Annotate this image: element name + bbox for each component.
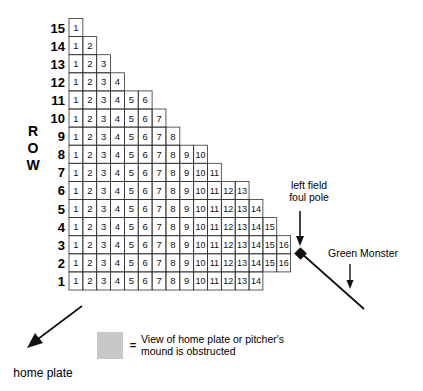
seat-number: 10 [196,240,206,250]
home-plate-label: home plate [13,366,73,380]
seat-number: 3 [101,185,106,196]
seat-number: 2 [87,221,92,232]
seat-number: 8 [170,167,175,178]
legend-swatch [97,332,123,359]
seat-number: 7 [156,203,161,214]
seat-number: 4 [115,94,120,105]
seat-number: 10 [196,150,206,160]
seat-number: 10 [196,258,206,268]
seat-number: 9 [184,185,189,196]
row-label: 14 [51,39,66,54]
seat-number: 6 [143,275,148,286]
seat-number: 5 [129,113,134,124]
seat-number: 10 [196,186,206,196]
row-label: 1 [58,274,65,289]
green-monster-wall [301,253,364,309]
seat-number: 4 [115,275,120,286]
seat-number: 2 [87,239,92,250]
seat-number: 1 [73,203,78,214]
seat-number: 8 [170,257,175,268]
seat-number: 12 [223,186,233,196]
seat-number: 4 [115,113,120,124]
seat-number: 8 [170,203,175,214]
legend-text-line1: View of home plate or pitcher's [141,333,284,345]
legend-equals: = [130,339,136,351]
foul-pole-arrow-head [296,236,304,246]
seat-number: 5 [129,185,134,196]
seat-number: 3 [101,94,106,105]
seat-number: 4 [115,203,120,214]
seat-number: 9 [184,167,189,178]
seat-number: 7 [156,257,161,268]
seat-number: 2 [87,40,92,51]
seat-number: 6 [143,185,148,196]
seat-number: 5 [129,203,134,214]
seat-number: 1 [73,257,78,268]
seat-number: 10 [196,222,206,232]
green-monster-arrow-head [347,280,354,289]
seat-number: 6 [143,167,148,178]
seat-number: 11 [210,240,219,250]
row-label: 3 [58,238,65,253]
seat-number: 11 [210,186,219,196]
seat-number: 1 [73,94,78,105]
seat-number: 5 [129,221,134,232]
seat-number: 15 [265,240,275,250]
seat-number: 16 [279,258,289,268]
seat-number: 7 [156,131,161,142]
row-label: 13 [51,57,65,72]
row-axis-letter: O [28,140,39,156]
seat-number: 14 [251,204,261,214]
seat-number: 13 [237,276,247,286]
seat-number: 8 [170,239,175,250]
seat-number: 5 [129,167,134,178]
seat-number: 15 [265,222,275,232]
row-label: 8 [58,147,65,162]
legend: = View of home plate or pitcher's mound … [97,332,284,359]
seat-number: 7 [156,149,161,160]
seat-number: 5 [129,257,134,268]
seat-number: 6 [143,131,148,142]
seat-number: 4 [115,76,120,87]
seat-number: 1 [73,239,78,250]
seat-number: 1 [73,76,78,87]
seat-number: 3 [101,203,106,214]
seat-number: 7 [156,185,161,196]
seat-number: 8 [170,275,175,286]
seat-number: 2 [87,76,92,87]
seat-number: 1 [73,221,78,232]
green-monster-label: Green Monster [328,247,399,259]
seat-number: 10 [196,204,206,214]
seat-number: 11 [210,258,219,268]
seat-number: 3 [101,58,106,69]
row-label: 7 [58,165,65,180]
row-axis-label: R O W [26,123,40,173]
home-plate-arrow-head [27,333,43,348]
seat-number: 11 [210,204,219,214]
row-label: 5 [58,202,65,217]
seat-number: 2 [87,113,92,124]
seat-number: 5 [129,131,134,142]
seat-number: 1 [73,40,78,51]
row-label: 6 [58,183,65,198]
seat-number: 2 [87,185,92,196]
seat-number: 11 [210,168,219,178]
seat-number: 12 [223,276,233,286]
seat-number: 5 [129,94,134,105]
seat-number: 1 [73,167,78,178]
seat-number: 14 [251,240,261,250]
seat-number: 14 [251,276,261,286]
seat-number: 4 [115,185,120,196]
seat-number: 3 [101,257,106,268]
seat-number: 12 [223,240,233,250]
seat-number: 3 [101,76,106,87]
seat-number: 7 [156,113,161,124]
seat-number: 2 [87,58,92,69]
seat-number: 6 [143,94,148,105]
seat-number: 14 [251,222,261,232]
seat-number: 2 [87,94,92,105]
seat-number: 13 [237,258,247,268]
seat-number: 8 [170,149,175,160]
seat-number: 12 [223,258,233,268]
seat-number: 3 [101,113,106,124]
